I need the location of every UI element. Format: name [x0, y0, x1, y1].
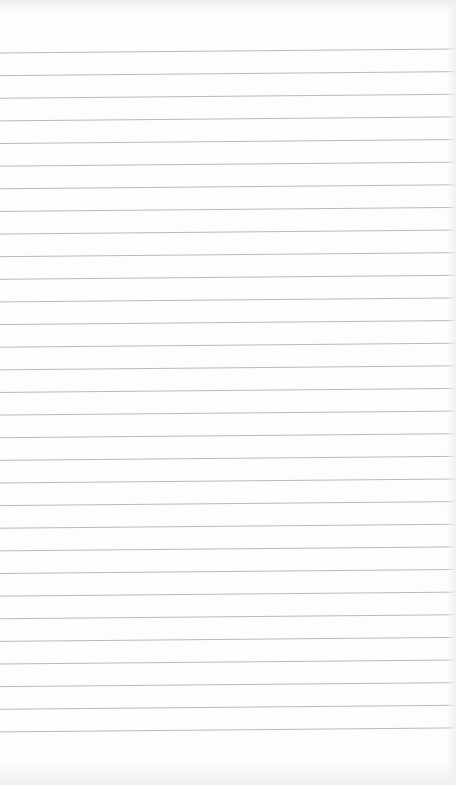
- paper-right-edge-shadow: [446, 0, 456, 785]
- ruled-line: [0, 524, 456, 528]
- ruled-line: [0, 207, 456, 211]
- ruled-line: [0, 388, 456, 392]
- ruled-line: [0, 49, 456, 53]
- ruled-line: [0, 162, 456, 166]
- ruled-line: [0, 547, 456, 551]
- ruled-line: [0, 140, 456, 144]
- ruled-line: [0, 185, 456, 189]
- ruled-line: [0, 72, 456, 76]
- ruled-line: [0, 230, 456, 234]
- ruled-line: [0, 456, 456, 460]
- ruled-line: [0, 94, 456, 98]
- paper-bottom-edge-shadow: [0, 761, 456, 785]
- ruled-line: [0, 434, 456, 438]
- ruled-line: [0, 321, 456, 325]
- ruled-line: [0, 343, 456, 347]
- ruled-line: [0, 615, 456, 619]
- ruled-line: [0, 411, 456, 415]
- ruled-line: [0, 117, 456, 121]
- ruled-line: [0, 637, 456, 641]
- ruled-line: [0, 660, 456, 664]
- ruled-line: [0, 253, 456, 257]
- ruled-line: [0, 728, 456, 732]
- ruled-line: [0, 275, 456, 279]
- ruled-line: [0, 502, 456, 506]
- ruled-line: [0, 705, 456, 709]
- ruled-line: [0, 683, 456, 687]
- ruled-line: [0, 592, 456, 596]
- ruled-line: [0, 479, 456, 483]
- lined-paper-sheet: [0, 0, 456, 785]
- ruled-line: [0, 298, 456, 302]
- ruled-lines: [0, 0, 456, 785]
- ruled-line: [0, 366, 456, 370]
- ruled-line: [0, 569, 456, 573]
